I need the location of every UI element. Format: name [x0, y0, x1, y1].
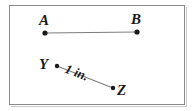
- point-a-dot: [42, 30, 47, 35]
- point-z-dot: [111, 86, 115, 90]
- point-b-dot: [134, 29, 139, 34]
- point-label-z: Z: [117, 83, 126, 98]
- point-label-b: B: [131, 12, 141, 27]
- segment-ab-line: [45, 32, 137, 33]
- diagram-canvas: [0, 0, 192, 111]
- point-label-y: Y: [39, 57, 48, 72]
- geometry-figure: A B Y Z 1 in.: [0, 0, 192, 111]
- point-label-a: A: [39, 13, 49, 28]
- point-y-dot: [55, 64, 59, 68]
